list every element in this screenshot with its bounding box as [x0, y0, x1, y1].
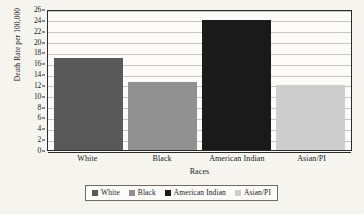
- y-tick-label-26: 26: [34, 6, 41, 14]
- bar-slot-american-indian: [200, 11, 274, 150]
- y-tick-label-22: 22: [34, 28, 41, 36]
- legend-item-asian-pi[interactable]: Asian/PI: [235, 188, 271, 197]
- x-tick-label-3: Asian/PI: [274, 154, 349, 163]
- bar-american-indian: [202, 20, 271, 150]
- x-tick-label-0: White: [50, 154, 125, 163]
- y-tick-label-20: 20: [34, 39, 41, 47]
- bar-slot-white: [51, 11, 125, 150]
- x-axis-title: Races: [47, 167, 352, 176]
- y-tick-mark-24: [42, 20, 45, 21]
- y-tick-mark-18: [42, 53, 45, 54]
- y-tick-label-14: 14: [34, 71, 41, 79]
- legend-label: American Indian: [174, 188, 226, 197]
- legend-swatch-icon: [92, 190, 98, 196]
- y-tick-label-16: 16: [34, 60, 41, 68]
- x-tick-label-1: Black: [125, 154, 200, 163]
- bar-slot-asian-pi: [274, 11, 348, 150]
- y-tick-mark-8: [42, 107, 45, 108]
- legend-label: Asian/PI: [244, 188, 271, 197]
- y-tick-label-24: 24: [34, 17, 41, 25]
- legend-swatch-icon: [129, 190, 135, 196]
- plot-area: [47, 10, 352, 151]
- y-tick-label-10: 10: [34, 93, 41, 101]
- y-tick-mark-14: [42, 75, 45, 76]
- legend-item-black[interactable]: Black: [129, 188, 156, 197]
- bar-slot-black: [125, 11, 199, 150]
- gridline-0: [48, 152, 351, 153]
- bar-chart-figure: Death Rate per 100,000 02468101214161820…: [0, 0, 364, 214]
- y-tick-mark-22: [42, 31, 45, 32]
- bar-black: [128, 82, 197, 150]
- y-tick-mark-2: [42, 140, 45, 141]
- chart-legend: WhiteBlackAmerican IndianAsian/PI: [85, 185, 278, 201]
- bar-asian-pi: [276, 85, 345, 150]
- y-tick-mark-0: [42, 151, 45, 152]
- y-axis-ticks: 02468101214161820222426: [0, 10, 45, 151]
- y-tick-label-0: 0: [37, 147, 41, 155]
- y-tick-label-2: 2: [37, 136, 41, 144]
- legend-label: Black: [138, 188, 156, 197]
- y-tick-mark-20: [42, 42, 45, 43]
- legend-swatch-icon: [165, 190, 171, 196]
- legend-label: White: [101, 188, 120, 197]
- y-tick-mark-10: [42, 96, 45, 97]
- y-tick-mark-6: [42, 118, 45, 119]
- y-tick-label-8: 8: [37, 104, 41, 112]
- bar-series: [48, 11, 351, 150]
- bar-white: [54, 58, 123, 150]
- y-tick-mark-26: [42, 10, 45, 11]
- legend-swatch-icon: [235, 190, 241, 196]
- legend-item-american-indian[interactable]: American Indian: [165, 188, 226, 197]
- y-tick-label-18: 18: [34, 50, 41, 58]
- x-tick-label-2: American Indian: [200, 154, 275, 163]
- y-tick-mark-12: [42, 85, 45, 86]
- y-tick-label-4: 4: [37, 126, 41, 134]
- x-axis-tick-labels: WhiteBlackAmerican IndianAsian/PI: [47, 154, 352, 163]
- y-tick-mark-4: [42, 129, 45, 130]
- y-tick-label-12: 12: [34, 82, 41, 90]
- y-tick-mark-16: [42, 64, 45, 65]
- y-tick-label-6: 6: [37, 115, 41, 123]
- legend-item-white[interactable]: White: [92, 188, 120, 197]
